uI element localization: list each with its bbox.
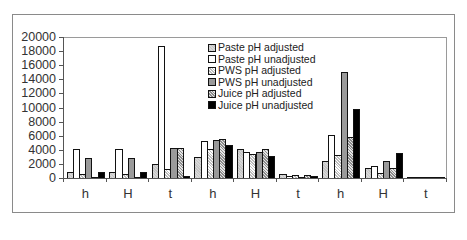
bar xyxy=(177,148,184,179)
legend-label: PWS pH adjusted xyxy=(218,65,301,77)
x-tick xyxy=(318,178,319,182)
x-tick xyxy=(191,178,192,182)
x-tick xyxy=(446,178,447,182)
y-tick xyxy=(59,122,63,123)
x-tick xyxy=(63,178,64,182)
y-tick xyxy=(59,79,63,80)
bar xyxy=(353,109,360,180)
y-tick xyxy=(59,51,63,52)
y-tick-label: 16000 xyxy=(10,59,56,71)
y-tick xyxy=(59,93,63,94)
x-tick xyxy=(361,178,362,182)
y-tick-label: 20000 xyxy=(10,31,56,43)
y-tick xyxy=(59,164,63,165)
chart-legend: Paste pH adjustedPaste pH unadjustedPWS … xyxy=(208,42,315,111)
legend-swatch-icon xyxy=(208,44,216,52)
x-tick xyxy=(106,178,107,182)
legend-label: Paste pH adjusted xyxy=(218,42,304,54)
x-tick xyxy=(233,178,234,182)
x-category-label: t xyxy=(274,186,322,201)
legend-item: Paste pH adjusted xyxy=(208,42,315,54)
y-tick-label: 4000 xyxy=(10,144,56,156)
y-tick-label: 12000 xyxy=(10,87,56,99)
y-tick xyxy=(59,150,63,151)
x-category-label: h xyxy=(189,186,237,201)
legend-item: PWS pH adjusted xyxy=(208,65,315,77)
legend-swatch-icon xyxy=(208,55,216,63)
bar xyxy=(128,158,135,179)
x-category-label: h xyxy=(61,186,109,201)
x-tick xyxy=(403,178,404,182)
x-tick xyxy=(276,178,277,182)
y-tick xyxy=(59,37,63,38)
x-tick xyxy=(148,178,149,182)
y-axis xyxy=(63,37,64,179)
legend-item: Juice pH unadjusted xyxy=(208,100,315,112)
legend-label: Juice pH adjusted xyxy=(218,88,301,100)
y-tick xyxy=(59,65,63,66)
bar xyxy=(396,153,403,179)
legend-swatch-icon xyxy=(208,101,216,109)
y-tick-label: 0 xyxy=(10,172,56,184)
y-tick-label: 6000 xyxy=(10,130,56,142)
x-axis xyxy=(63,178,447,179)
y-tick-label: 10000 xyxy=(10,102,56,114)
legend-swatch-icon xyxy=(208,67,216,75)
y-tick-label: 18000 xyxy=(10,45,56,57)
y-tick-label: 14000 xyxy=(10,73,56,85)
bar xyxy=(225,145,232,179)
x-category-label: t xyxy=(402,186,450,201)
legend-swatch-icon xyxy=(208,78,216,86)
legend-label: Juice pH unadjusted xyxy=(218,100,313,112)
x-category-label: t xyxy=(146,186,194,201)
bar xyxy=(268,156,275,179)
x-category-label: H xyxy=(232,186,280,201)
y-tick xyxy=(59,108,63,109)
y-tick-label: 2000 xyxy=(10,158,56,170)
y-tick xyxy=(59,136,63,137)
bar xyxy=(158,46,165,179)
legend-item: Juice pH adjusted xyxy=(208,88,315,100)
y-tick-label: 8000 xyxy=(10,116,56,128)
bar xyxy=(85,158,92,179)
legend-swatch-icon xyxy=(208,90,216,98)
x-category-label: H xyxy=(104,186,152,201)
x-category-label: H xyxy=(359,186,407,201)
x-category-label: h xyxy=(317,186,365,201)
